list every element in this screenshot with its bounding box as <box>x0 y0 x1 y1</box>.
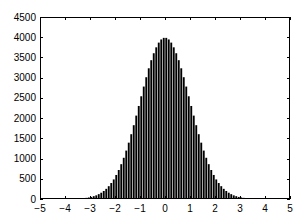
histogram-bar <box>200 143 202 199</box>
x-tick-label: −4 <box>59 203 71 214</box>
histogram-bar <box>188 96 190 199</box>
histogram-bar <box>190 106 192 199</box>
histogram-bar <box>105 189 107 199</box>
histogram-bar <box>223 189 225 199</box>
y-tick-label: 3000 <box>14 72 37 83</box>
histogram-bar <box>138 106 140 199</box>
histogram-bar <box>170 43 172 199</box>
histogram-bar <box>133 125 135 199</box>
histogram-bar <box>205 158 207 199</box>
y-tick-label: 3500 <box>14 52 37 63</box>
y-tick-label: 4500 <box>14 12 37 23</box>
y-tick-label: 1500 <box>14 133 37 144</box>
histogram-bar <box>128 143 130 199</box>
histogram-bar <box>143 87 145 199</box>
x-tick-label: −3 <box>84 203 96 214</box>
histogram-bar <box>198 134 200 199</box>
x-tick-label: 0 <box>162 203 168 214</box>
histogram-bar <box>208 164 210 199</box>
histogram-bar <box>135 116 137 199</box>
histogram-bar <box>150 60 152 199</box>
histogram-bar <box>120 164 122 199</box>
x-tick-label: −5 <box>34 203 46 214</box>
histogram-bar <box>163 38 165 199</box>
y-tick-label: 1000 <box>14 153 37 164</box>
histogram-bar <box>178 60 180 199</box>
histogram-bar <box>185 87 187 199</box>
x-tick-label: 1 <box>187 203 193 214</box>
histogram-bar <box>115 175 117 199</box>
x-tick-label: −2 <box>109 203 121 214</box>
histogram-bar <box>130 134 132 199</box>
histogram-bar <box>118 170 120 199</box>
x-tick-label: 4 <box>262 203 268 214</box>
histogram-bar <box>160 39 162 199</box>
y-tick-label: 2500 <box>14 92 37 103</box>
plot-area <box>40 17 290 199</box>
y-tick-label: 2000 <box>14 113 37 124</box>
histogram-bar <box>173 47 175 199</box>
histogram-bar <box>155 47 157 199</box>
histogram-bar <box>175 53 177 199</box>
histogram-bar <box>145 77 147 199</box>
histogram-bar <box>225 191 227 199</box>
x-tick-label: 5 <box>287 203 293 214</box>
histogram-bar <box>165 38 167 199</box>
histogram-bar <box>195 125 197 199</box>
histogram-chart: −5−4−3−2−1012345 05001000150020002500300… <box>0 0 301 222</box>
y-tick-label: 4000 <box>14 32 37 43</box>
histogram-bar <box>153 53 155 199</box>
histogram-bar <box>108 186 110 199</box>
histogram-bar <box>158 43 160 199</box>
histogram-bar <box>113 179 115 199</box>
histogram-bar <box>180 68 182 199</box>
histogram-bar <box>193 116 195 199</box>
histogram-bar <box>210 170 212 199</box>
y-tick-label: 500 <box>19 173 36 184</box>
histogram-bar <box>123 158 125 199</box>
x-tick-label: 2 <box>212 203 218 214</box>
histogram-bar <box>218 183 220 199</box>
histogram-bar <box>168 39 170 199</box>
x-tick-label: 3 <box>237 203 243 214</box>
histogram-bar <box>220 186 222 199</box>
histogram-bar <box>125 151 127 199</box>
histogram-bar <box>148 68 150 199</box>
y-tick-label: 0 <box>30 194 36 205</box>
histogram-bar <box>183 77 185 199</box>
histogram-bar <box>110 183 112 199</box>
histogram-bar <box>213 175 215 199</box>
histogram-bar <box>103 191 105 199</box>
histogram-bar <box>140 96 142 199</box>
histogram-bar <box>203 151 205 199</box>
x-tick-label: −1 <box>134 203 146 214</box>
